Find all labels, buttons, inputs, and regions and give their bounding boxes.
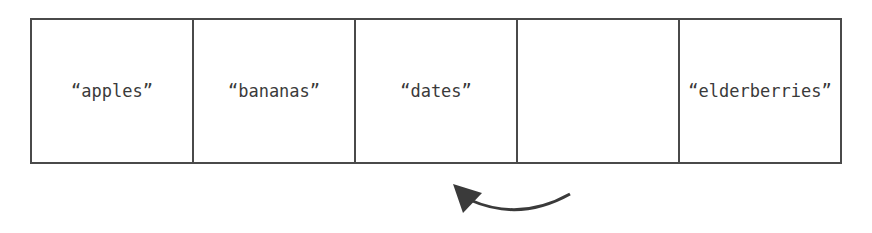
curved-arrow-left-icon xyxy=(0,0,872,233)
